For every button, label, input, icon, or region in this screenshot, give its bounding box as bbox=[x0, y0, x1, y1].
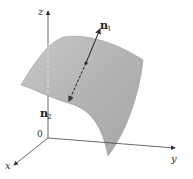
n1-subscript: 1 bbox=[107, 25, 111, 33]
y-axis-label: y bbox=[170, 153, 177, 164]
n2-subscript: 2 bbox=[47, 113, 51, 121]
x-axis-label: x bbox=[5, 160, 11, 171]
z-axis-label: z bbox=[37, 6, 44, 17]
x-axis bbox=[14, 138, 48, 165]
surface-normals-diagram: z y x 0 n 1 n 2 bbox=[0, 0, 193, 179]
surface-point bbox=[84, 61, 87, 64]
origin-label: 0 bbox=[37, 129, 43, 139]
